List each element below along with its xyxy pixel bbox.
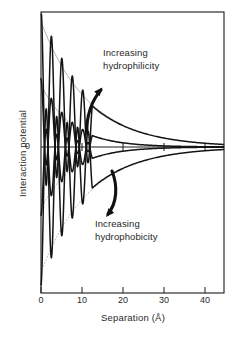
annotation-hydrophobicity-line1: Increasing	[95, 218, 158, 231]
x-tick-label-20: 20	[111, 295, 135, 305]
y-tick-label-0: 0	[25, 141, 30, 151]
y-axis-label: Interaction potential	[17, 84, 28, 224]
annotation-hydrophobicity-line2: hydrophobicity	[95, 231, 158, 244]
annotation-increasing-hydrophilicity: Increasing hydrophilicity	[103, 47, 159, 72]
annotation-hydrophilicity-line1: Increasing	[103, 47, 159, 60]
x-tick-label-30: 30	[152, 295, 176, 305]
annotation-increasing-hydrophobicity: Increasing hydrophobicity	[95, 218, 158, 243]
x-axis-label: Separation (Å)	[41, 312, 225, 323]
x-axis-ticks	[41, 287, 205, 293]
arrow-hydrophobicity-shaft	[108, 171, 116, 214]
curve-most-hydrophobic	[41, 109, 223, 285]
x-tick-label-40: 40	[193, 295, 217, 305]
annotation-hydrophilicity-line2: hydrophilicity	[103, 60, 159, 73]
x-tick-label-10: 10	[70, 295, 94, 305]
x-tick-label-0: 0	[29, 295, 53, 305]
figure-container: Interaction potential Separation (Å) 0 0…	[0, 0, 242, 337]
